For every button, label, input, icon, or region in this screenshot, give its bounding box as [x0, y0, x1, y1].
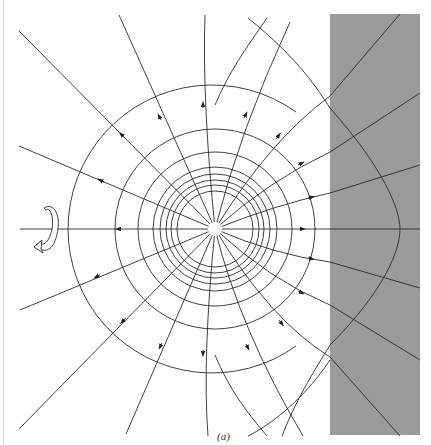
point-charge	[208, 222, 222, 236]
rotation-symmetry-icon	[34, 206, 58, 253]
field-diagram	[0, 0, 431, 445]
figure-caption: (a)	[217, 430, 230, 442]
